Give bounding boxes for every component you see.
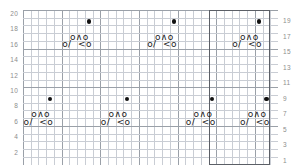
gridline-horizontal [23, 25, 278, 26]
gridline-horizontal [23, 87, 278, 88]
purl-dot [264, 97, 268, 101]
axis-tick-left-6: 6 [2, 119, 18, 126]
gridline-horizontal [23, 64, 278, 65]
yarnover-left-right-decrease: o/ <o [232, 40, 262, 49]
gridline-horizontal [23, 18, 278, 19]
axis-tick-right-11: 11 [283, 80, 299, 87]
purl-dot [257, 19, 261, 23]
yarnover-left-right-decrease: o/ <o [240, 118, 270, 127]
axis-tick-left-16: 16 [2, 42, 18, 49]
axis-tick-left-4: 4 [2, 134, 18, 141]
yarnover-left-right-decrease: o/ <o [24, 118, 54, 127]
gridline-horizontal [23, 103, 278, 104]
axis-tick-right-17: 17 [283, 34, 299, 41]
axis-tick-left-8: 8 [2, 103, 18, 110]
yarnover-left-right-decrease: o/ <o [62, 40, 92, 49]
axis-tick-left-18: 18 [2, 26, 18, 33]
axis-tick-right-19: 19 [283, 18, 299, 25]
gridline-horizontal [23, 134, 278, 135]
purl-dot [87, 19, 91, 23]
gridline-horizontal [23, 56, 278, 57]
axis-tick-left-12: 12 [2, 73, 18, 80]
gridline-horizontal [23, 80, 278, 81]
axis-tick-right-5: 5 [283, 127, 299, 134]
yarnover-left-right-decrease: o/ <o [186, 118, 216, 127]
gridline-horizontal [23, 149, 278, 150]
axis-tick-right-3: 3 [283, 142, 299, 149]
axis-tick-right-15: 15 [283, 49, 299, 56]
axis-tick-right-13: 13 [283, 65, 299, 72]
axis-tick-left-14: 14 [2, 57, 18, 64]
gridline-horizontal [23, 157, 278, 158]
axis-tick-right-7: 7 [283, 111, 299, 118]
axis-tick-right-9: 9 [283, 96, 299, 103]
axis-tick-left-2: 2 [2, 150, 18, 157]
gridline-horizontal [23, 72, 278, 73]
axis-tick-left-10: 10 [2, 88, 18, 95]
axis-tick-right-1: 1 [283, 158, 299, 165]
gridline-horizontal [23, 95, 278, 96]
yarnover-left-right-decrease: o/ <o [147, 40, 177, 49]
purl-dot [172, 19, 176, 23]
axis-tick-left-20: 20 [2, 11, 18, 18]
yarnover-left-right-decrease: o/ <o [101, 118, 131, 127]
gridline-horizontal [23, 141, 278, 142]
knitting-chart: 2018161412108642 191715131197531 o∧oo/ <… [0, 0, 305, 166]
gridline-horizontal [23, 110, 278, 111]
gridline-horizontal [23, 10, 278, 11]
